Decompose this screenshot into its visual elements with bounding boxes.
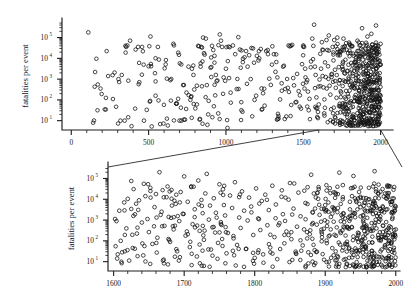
y-tick-label: 10 bbox=[87, 236, 95, 245]
x-tick-label: 500 bbox=[143, 138, 154, 147]
x-tick-label: 1500 bbox=[296, 138, 311, 147]
y-tick-label: 10 bbox=[87, 216, 95, 225]
y-tick-exponent: 5 bbox=[49, 31, 52, 37]
figure-canvas: 0500100015002000101102103104105fatalitie… bbox=[0, 0, 414, 299]
y-tick-exponent: 3 bbox=[49, 73, 52, 79]
y-tick-exponent: 3 bbox=[95, 214, 98, 220]
x-tick-label: 1900 bbox=[318, 279, 333, 288]
y-tick-label: 10 bbox=[87, 174, 95, 183]
y-tick-exponent: 1 bbox=[95, 255, 98, 261]
y-tick-label: 10 bbox=[87, 257, 95, 266]
y-tick-exponent: 2 bbox=[95, 234, 98, 240]
y-tick-label: 10 bbox=[41, 75, 49, 84]
x-tick-label: 0 bbox=[69, 138, 73, 147]
y-tick-label: 10 bbox=[87, 195, 95, 204]
y-tick-exponent: 4 bbox=[95, 193, 98, 199]
y-tick-exponent: 4 bbox=[49, 52, 52, 58]
y-tick-exponent: 5 bbox=[95, 172, 98, 178]
x-tick-label: 1700 bbox=[177, 279, 192, 288]
y-tick-label: 10 bbox=[41, 95, 49, 104]
y-tick-label: 10 bbox=[41, 33, 49, 42]
y-tick-exponent: 2 bbox=[49, 93, 52, 99]
top-y-axis-title: fatalities per event bbox=[20, 44, 30, 108]
x-tick-label: 1800 bbox=[247, 279, 262, 288]
x-tick-label: 2000 bbox=[388, 279, 403, 288]
scatter-figure: 0500100015002000101102103104105fatalitie… bbox=[0, 0, 414, 299]
y-tick-label: 10 bbox=[41, 116, 49, 125]
y-tick-label: 10 bbox=[41, 54, 49, 63]
x-tick-label: 1600 bbox=[106, 279, 121, 288]
y-tick-exponent: 1 bbox=[49, 114, 52, 120]
bottom-y-axis-title: fatalities per event bbox=[66, 186, 76, 250]
